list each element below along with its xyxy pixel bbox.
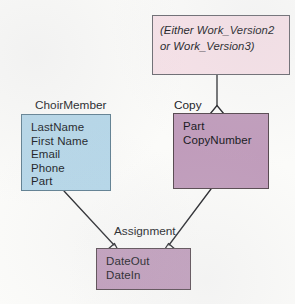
attribute-item: Part [31,175,106,189]
note-work-version-text: (Either Work_Version2 or Work_Version3) [160,23,283,54]
attribute-item: DateIn [106,269,186,283]
edge-choirmember-to-assignment [64,191,114,245]
attribute-item: First Name [31,135,106,149]
entity-assignment-attributes: DateOut DateIn [106,255,186,282]
entity-assignment[interactable]: DateOut DateIn [96,248,191,290]
entity-title-choirmember: ChoirMember [35,99,106,112]
attribute-item: CopyNumber [183,134,264,148]
attribute-item: Part [183,120,264,134]
entity-choirmember[interactable]: LastName First Name Email Phone Part [21,114,111,191]
attribute-item: DateOut [106,255,186,269]
entity-copy[interactable]: Part CopyNumber [173,113,269,189]
attribute-item: Phone [31,162,106,176]
attribute-item: Email [31,148,106,162]
attribute-item: LastName [31,121,106,135]
relationship-label-assignment: Assignment [114,225,176,238]
note-work-version[interactable]: (Either Work_Version2 or Work_Version3) [152,15,290,75]
diagram-canvas: (Either Work_Version2 or Work_Version3) … [0,0,295,304]
entity-title-copy: Copy [174,99,202,112]
entity-choirmember-attributes: LastName First Name Email Phone Part [31,121,106,189]
entity-copy-attributes: Part CopyNumber [183,120,264,147]
